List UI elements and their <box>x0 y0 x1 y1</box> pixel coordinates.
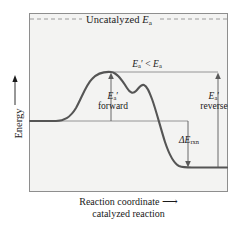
comparison-uncatalyzed-symbol: Ea <box>153 59 162 69</box>
y-axis-label: Energy <box>13 89 24 159</box>
x-axis-line-two: catalyzed reaction <box>29 209 228 220</box>
x-axis-title: Reaction coordinate <box>79 196 159 207</box>
forward-activation-energy-label: Ea′ forward <box>85 92 141 112</box>
y-axis-arrow-head <box>12 75 17 82</box>
delta-symbol: ΔErxn <box>179 135 199 145</box>
x-axis-line-one: Reaction coordinate ⟶ <box>29 196 228 208</box>
enthalpy-change-label: ΔErxn <box>168 136 210 146</box>
forward-caption: forward <box>85 102 141 112</box>
comparison-catalyzed-symbol: Ea′ <box>132 59 143 69</box>
uncatalyzed-word: Uncatalyzed <box>86 14 140 25</box>
right-arrow-icon: ⟶ <box>162 195 178 207</box>
uncatalyzed-symbol: Ea <box>142 14 152 25</box>
reverse-activation-energy-label: Ea′ reverse <box>190 92 238 112</box>
comparison-operator: < <box>145 59 153 69</box>
figure-canvas: Uncatalyzed Ea Ea′ < Ea Ea′ forward Ea′ … <box>0 0 238 225</box>
reverse-caption: reverse <box>190 102 238 112</box>
x-axis-label: Reaction coordinate ⟶ catalyzed reaction <box>29 196 228 219</box>
energy-diagram-figure: Uncatalyzed Ea Ea′ < Ea Ea′ forward Ea′ … <box>0 0 238 225</box>
uncatalyzed-activation-energy-label: Uncatalyzed Ea <box>0 14 238 27</box>
activation-energy-comparison-label: Ea′ < Ea <box>0 60 238 70</box>
